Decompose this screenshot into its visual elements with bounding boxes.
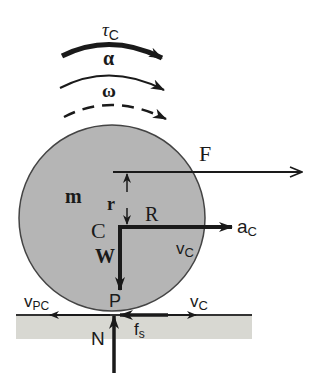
offset-label: r <box>107 194 115 214</box>
acceleration-label: aC <box>237 216 257 239</box>
normal-force-label: N <box>91 328 105 349</box>
mass-label: m <box>65 185 82 207</box>
contact-velocity-label: vPC <box>24 292 50 313</box>
contact-point-label: P <box>109 291 121 311</box>
torque-label: τC <box>102 19 119 43</box>
angular-velocity-label: ω <box>102 80 116 101</box>
angular-acceleration-label: α <box>103 47 114 69</box>
center-label: C <box>91 218 106 243</box>
wheel <box>19 125 205 311</box>
angular-velocity-arc-icon <box>64 105 166 119</box>
rolling-wheel-diagram: τC α ω F m r R C aC vC W P vPC fs vC N <box>0 0 319 388</box>
radius-label: R <box>145 203 159 225</box>
weight-label: W <box>95 245 115 267</box>
applied-force-label: F <box>199 141 211 166</box>
ground-velocity-label: vC <box>190 292 208 313</box>
